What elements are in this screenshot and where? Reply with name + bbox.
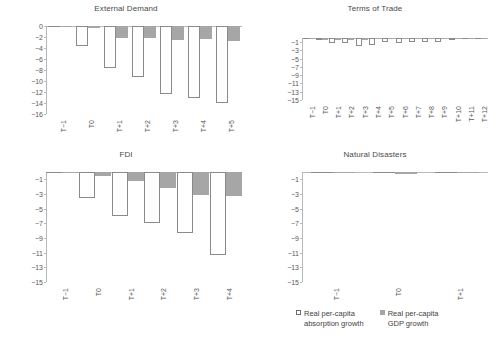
bar-pair (369, 38, 381, 100)
x-tick-label: T+11 (468, 106, 475, 122)
bar-gdp (335, 38, 341, 40)
y-tick-label: −14 (31, 100, 43, 107)
bar-absorption (112, 172, 128, 216)
y-tick-label: −13 (31, 264, 43, 271)
bar-gdp (228, 26, 240, 41)
bar-absorption (369, 38, 375, 45)
bar-gdp (200, 26, 212, 39)
x-tick-label: T+4 (226, 288, 233, 300)
y-tick-label: −9 (35, 235, 43, 242)
plot-area-external-demand: 0−2−4−6−8−10−12−14−16 T−1T0T+1T+2T+3T+4T… (46, 26, 242, 114)
bar-group (315, 38, 328, 100)
bar-gdp (395, 172, 417, 174)
x-tick-label: T0 (322, 106, 329, 114)
panel-terms-of-trade: Terms of Trade −1−3−5−7−9−11−13−15 T−1T0… (252, 4, 498, 144)
y-tick-label: −11 (32, 249, 43, 256)
chart-title-natural-disasters: Natural Disasters (252, 150, 498, 159)
x-tick-label: T+5 (228, 120, 235, 132)
y-tick-label: −11 (288, 80, 299, 87)
bar-pair (462, 38, 474, 100)
bar-absorption (46, 172, 62, 173)
bar-absorption (144, 172, 160, 223)
y-tick-label: −5 (291, 55, 299, 62)
bar-gdp (428, 38, 434, 39)
bar-absorption (216, 26, 228, 103)
bar-group (79, 172, 112, 282)
bar-group (144, 172, 177, 282)
y-tick-label: −15 (31, 279, 43, 286)
bar-pair (311, 172, 355, 282)
chart-legend: Real per-capita absorption growth Real p… (296, 309, 438, 328)
bar-pair (356, 38, 368, 100)
y-tick-label: −1 (35, 176, 43, 183)
y-tick-mark (300, 100, 302, 101)
panel-external-demand: External Demand 0−2−4−6−8−10−12−14−16 T−… (0, 4, 252, 144)
bar-pair (160, 26, 184, 114)
bar-pair (112, 172, 144, 282)
bar-gdp (322, 38, 328, 40)
y-tick-label: −2 (35, 34, 43, 41)
y-tick-label: −7 (291, 220, 299, 227)
bar-pair (216, 26, 240, 114)
bar-absorption (160, 26, 172, 94)
bar-pair (210, 172, 242, 282)
bar-absorption (188, 26, 200, 98)
bar-absorption (79, 172, 95, 198)
bar-absorption (177, 172, 193, 233)
bar-gdp (309, 38, 315, 39)
bar-group (422, 38, 435, 100)
x-tick-label: T+10 (455, 106, 462, 122)
x-tick-label: T+1 (116, 120, 123, 132)
bar-gdp (455, 38, 461, 39)
bar-gdp (481, 38, 487, 39)
x-tick-label: T+3 (193, 288, 200, 300)
y-tick-label: −16 (31, 111, 43, 118)
bar-gdp (457, 172, 479, 173)
y-tick-label: −1 (291, 176, 299, 183)
bar-group (130, 26, 158, 114)
legend-item-absorption: Real per-capita absorption growth (296, 309, 364, 328)
bar-group (435, 38, 448, 100)
bar-pair (449, 38, 461, 100)
y-tick-mark (44, 114, 46, 115)
bar-group (364, 172, 426, 282)
x-tick-label: T+6 (402, 106, 409, 118)
bar-gdp (88, 26, 100, 28)
x-tick-label: T+3 (172, 120, 179, 132)
x-tick-label: T+12 (481, 106, 488, 122)
x-tick-label: T+2 (160, 288, 167, 300)
bar-absorption (311, 172, 333, 173)
bar-pair (132, 26, 156, 114)
y-tick-mark (44, 282, 46, 283)
bar-absorption (373, 172, 395, 173)
bar-gdp (62, 172, 78, 173)
bar-gdp (172, 26, 184, 40)
bar-pair (76, 26, 100, 114)
chart-title-fdi: FDI (0, 150, 252, 159)
y-tick-label: −11 (288, 249, 299, 256)
bar-gdp (160, 172, 176, 188)
x-tick-label: T−1 (333, 288, 340, 300)
bar-group (461, 38, 474, 100)
plot-area-fdi: −1−3−5−7−9−11−13−15 T−1T0T+1T+2T+3T+4 (46, 172, 242, 282)
x-tick-label: T−1 (309, 106, 316, 118)
bar-group (302, 172, 364, 282)
bar-pair (422, 38, 434, 100)
bar-gdp (333, 172, 355, 173)
bar-gdp (348, 38, 354, 40)
bar-pair (46, 172, 78, 282)
bar-gdp (468, 38, 474, 39)
x-tick-label: T0 (88, 120, 95, 128)
chart-title-terms-of-trade: Terms of Trade (252, 4, 498, 13)
x-tick-label: T0 (395, 288, 402, 296)
bar-pair (409, 38, 421, 100)
x-tick-label: T+9 (441, 106, 448, 118)
bar-group (209, 172, 242, 282)
bar-gdp (362, 38, 368, 40)
bar-group (448, 38, 461, 100)
bar-group (74, 26, 102, 114)
x-tick-label: T+2 (144, 120, 151, 132)
y-tick-label: −4 (35, 45, 43, 52)
x-tick-label: T+1 (457, 288, 464, 300)
x-tick-label: T+2 (348, 106, 355, 118)
